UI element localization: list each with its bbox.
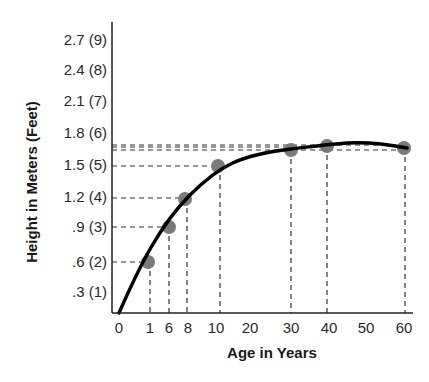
y-tick-label: 1.5 (5) [64,156,107,173]
y-axis-title: Height in Meters (Feet) [23,101,40,263]
x-tick-label: 8 [184,319,192,336]
x-axis-title: Age in Years [227,344,317,361]
y-tick-label: 1.8 (6) [64,124,107,141]
y-tick-label: 2.4 (8) [64,61,107,78]
y-tick-label: .6 (2) [72,253,107,270]
x-tick-label: 50 [358,319,375,336]
x-tick-label: 1 [146,319,154,336]
y-tick-label: .3 (1) [72,283,107,300]
y-tick-label: 2.1 (7) [64,92,107,109]
x-tick-label: 6 [165,319,173,336]
x-tick-label: 10 [208,319,225,336]
y-tick-labels: .3 (1) .6 (2) .9 (3) 1.2 (4) 1.5 (5) 1.8… [64,31,107,300]
x-tick-label: 20 [242,319,259,336]
x-tick-label: 40 [321,319,338,336]
x-tick-label: 60 [396,319,413,336]
x-tick-label: 0 [115,319,123,336]
guide-lines [112,145,405,313]
growth-curve [119,143,407,313]
axes [112,22,413,313]
y-tick-label: .9 (3) [72,218,107,235]
x-tick-labels: 0 1 6 8 10 20 30 40 50 60 [115,319,413,336]
y-tick-label: 1.2 (4) [64,188,107,205]
y-tick-label: 2.7 (9) [64,31,107,48]
x-tick-label: 30 [283,319,300,336]
growth-chart: .3 (1) .6 (2) .9 (3) 1.2 (4) 1.5 (5) 1.8… [0,0,429,382]
